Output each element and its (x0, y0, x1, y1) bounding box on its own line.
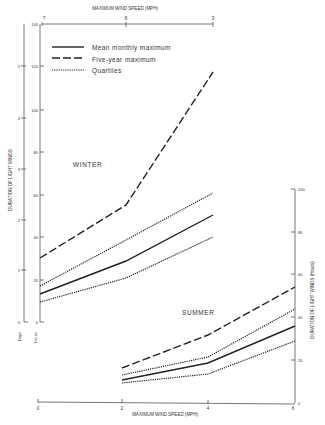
legend-item-mean: Mean monthly maximum (92, 44, 171, 52)
left-days-tick: 0 (18, 320, 21, 325)
summer-upper-quartile-line (122, 309, 295, 375)
left-days-tick: 3 (18, 167, 21, 172)
left-hours-tick: 100 (31, 108, 38, 113)
winter-five-year-max-line (40, 72, 213, 258)
legend-item-five-year: Five-year maximum (92, 56, 156, 64)
winter-lower-quartile-line (40, 237, 213, 302)
top-tick-label: 8 (125, 16, 128, 21)
winter-series (40, 72, 213, 302)
left-hours-tick: 0 (36, 320, 39, 325)
left-days-tick: 1 (18, 268, 21, 273)
bottom-axis-title: MAXIMUM WIND SPEED (MPH) (132, 412, 198, 417)
summer-five-year-max-line (122, 287, 295, 368)
left-hours-tick: 140 (31, 22, 38, 27)
left-hours-axis: 0 20 40 60 80 100 120 140 Hours (31, 22, 44, 343)
left-hours-tick: 40 (34, 235, 39, 240)
right-hours-axis: 0 20 40 60 80 100 DURATION OF LIGHT WIND… (291, 187, 315, 406)
bottom-tick-label: 0 (37, 406, 40, 411)
right-hours-tick: 100 (298, 187, 305, 192)
wind-duration-chart: MAXIMUM WIND SPEED (MPH) 7 8 9 0 20 40 6… (0, 0, 325, 425)
right-hours-tick: 20 (298, 358, 303, 363)
left-hours-tick: 80 (34, 150, 39, 155)
winter-upper-quartile-line (40, 193, 213, 286)
left-days-tick: 5 (18, 64, 21, 69)
left-days-axis: 0 1 2 3 4 5 Days DURATION OF LIGHT WINDS (8, 24, 28, 341)
hours-unit-label: Hours (33, 332, 38, 343)
top-x-axis: MAXIMUM WIND SPEED (MPH) 7 8 9 (42, 6, 215, 27)
bottom-tick-label: 2 (121, 406, 124, 411)
left-days-tick: 2 (18, 218, 21, 223)
left-axis-title: DURATION OF LIGHT WINDS (8, 149, 13, 210)
winter-mean-line (40, 215, 213, 294)
winter-label: WINTER (73, 161, 102, 168)
summer-label: SUMMER (182, 309, 215, 316)
top-axis-title: MAXIMUM WIND SPEED (MPH) (92, 6, 158, 11)
left-hours-tick: 120 (31, 64, 38, 69)
bottom-tick-label: 6 (292, 406, 295, 411)
bottom-tick-label: 4 (207, 406, 210, 411)
right-hours-tick: 40 (298, 315, 303, 320)
bottom-x-axis: 0 2 4 6 MAXIMUM WIND SPEED (MPH) (37, 399, 295, 417)
legend: Mean monthly maximum Five-year maximum Q… (52, 44, 171, 75)
left-hours-tick: 60 (34, 193, 39, 198)
days-unit-label: Days (17, 332, 22, 341)
right-hours-tick: 80 (298, 230, 303, 235)
left-hours-tick: 20 (34, 278, 39, 283)
right-hours-tick: 60 (298, 272, 303, 277)
top-tick-label: 7 (43, 16, 46, 21)
right-axis-title: DURATION OF LIGHT WINDS (Hours) (310, 261, 315, 339)
top-tick-label: 9 (212, 16, 215, 21)
summer-series (122, 287, 295, 383)
right-hours-tick: 0 (298, 401, 301, 406)
summer-lower-quartile-line (122, 341, 295, 383)
legend-item-quartiles: Quartiles (92, 67, 122, 75)
left-days-tick: 4 (18, 116, 21, 121)
